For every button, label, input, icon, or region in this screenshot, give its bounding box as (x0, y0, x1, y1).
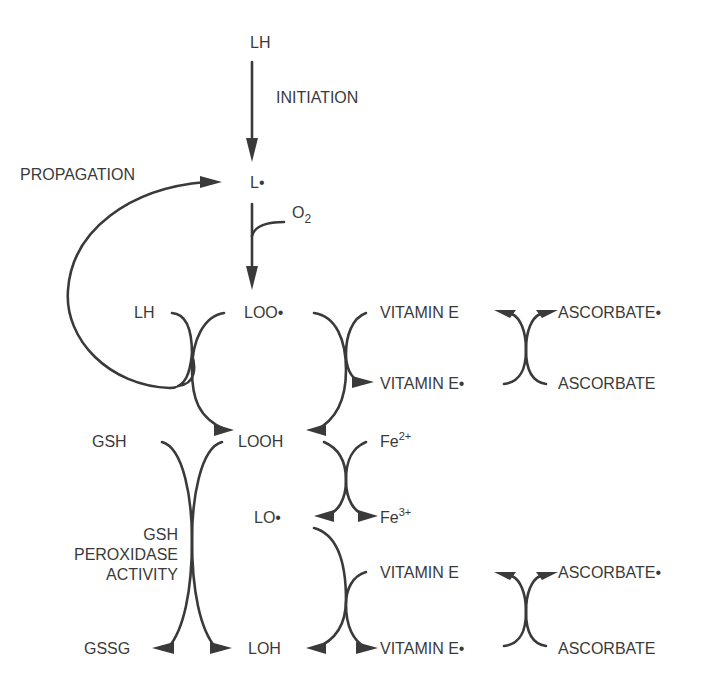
ascorbate-label-1: ASCORBATE (558, 375, 656, 392)
gsh-peroxidase-line3: ACTIVITY (106, 566, 178, 583)
gsh-peroxidase-line2: PEROXIDASE (74, 546, 178, 563)
fe2-label: Fe2+ (380, 430, 411, 450)
lh-top-label: LH (250, 34, 270, 51)
l-radical-label: L• (250, 174, 265, 191)
ascorbate-radical-label-1: ASCORBATE• (558, 304, 661, 321)
vitamin-e-label-2: VITAMIN E (380, 564, 459, 581)
o2-label: O2 (292, 204, 311, 226)
lipid-peroxidation-diagram: LH INITIATION PROPAGATION L• O2 LH LOO• … (0, 0, 714, 686)
propagation-crossover (172, 313, 234, 436)
gssg-label: GSSG (84, 640, 130, 657)
vitamin-e-crossover-1 (306, 313, 374, 436)
propagation-arrow (68, 176, 222, 388)
fe3-label: Fe3+ (380, 506, 411, 526)
propagation-label: PROPAGATION (20, 166, 135, 183)
ascorbate-radical-label-2: ASCORBATE• (558, 564, 661, 581)
looh-label: LOOH (238, 433, 283, 450)
lh-mid-label: LH (134, 304, 154, 321)
initiation-arrow (246, 62, 258, 162)
ascorbate-crossover-2 (494, 572, 558, 646)
vitamin-e-radical-label-2: VITAMIN E• (380, 640, 464, 657)
gsh-peroxidase-line1: GSH (143, 526, 178, 543)
iron-crossover (314, 442, 378, 522)
vitamin-e-label-1: VITAMIN E (380, 304, 459, 321)
loh-label: LOH (248, 640, 281, 657)
vitamin-e-radical-label-1: VITAMIN E• (380, 375, 464, 392)
gsh-label: GSH (92, 433, 127, 450)
ascorbate-label-2: ASCORBATE (558, 640, 656, 657)
lo-radical-label: LO• (254, 509, 281, 526)
vitamin-e-crossover-2 (306, 528, 378, 654)
loo-radical-label: LOO• (244, 304, 283, 321)
oxygenation-arrow (246, 204, 284, 290)
initiation-label: INITIATION (276, 89, 358, 106)
ascorbate-crossover-1 (494, 310, 558, 384)
